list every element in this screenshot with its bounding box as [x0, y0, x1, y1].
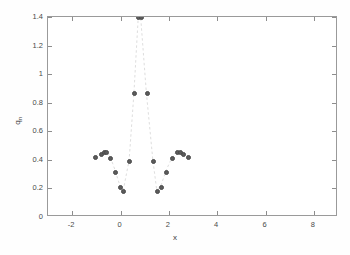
x-tick-6	[266, 211, 267, 215]
data-point	[164, 170, 169, 175]
y-tick-label-0.2: 0.2	[18, 183, 43, 192]
y-tick-right-0.4	[332, 160, 336, 161]
x-tick-top-2	[169, 17, 170, 21]
y-tick-label-1: 1	[18, 69, 43, 78]
y-tick-label-1.2: 1.2	[18, 40, 43, 49]
data-point	[93, 155, 98, 160]
y-axis-label-subscript: n	[17, 117, 23, 120]
y-tick-0.2	[48, 188, 52, 189]
data-point	[170, 156, 175, 161]
data-point	[132, 91, 137, 96]
data-point	[104, 150, 109, 155]
data-point	[113, 170, 118, 175]
y-tick-1.4	[48, 17, 52, 18]
data-point	[108, 156, 113, 161]
x-tick-label-4: 4	[214, 220, 218, 229]
x-tick-8	[314, 211, 315, 215]
data-point	[127, 159, 132, 164]
x-tick-label-0: 0	[117, 220, 121, 229]
y-tick-label-0: 0	[18, 212, 43, 221]
y-tick-1.2	[48, 46, 52, 47]
x-tick-label--2: -2	[68, 220, 75, 229]
y-tick-right-0.2	[332, 188, 336, 189]
x-tick-label-2: 2	[166, 220, 170, 229]
y-axis-label-base: q	[13, 120, 22, 124]
x-tick-2	[169, 211, 170, 215]
y-tick-0.6	[48, 131, 52, 132]
data-point	[139, 16, 144, 20]
x-tick-0	[121, 211, 122, 215]
x-tick-label-8: 8	[311, 220, 315, 229]
y-tick-label-0.4: 0.4	[18, 154, 43, 163]
x-tick-top-4	[217, 17, 218, 21]
y-tick-right-0.6	[332, 131, 336, 132]
y-tick-right-1	[332, 74, 336, 75]
x-axis-label: x	[0, 233, 350, 242]
x-tick-top-8	[314, 17, 315, 21]
data-point	[186, 155, 191, 160]
y-axis-label: qn	[13, 117, 23, 125]
y-tick-right-1.4	[332, 17, 336, 18]
data-point	[121, 189, 126, 194]
plot-area	[47, 16, 337, 216]
data-point	[145, 91, 150, 96]
series-connecting-lines	[48, 17, 336, 215]
data-point	[151, 159, 156, 164]
y-tick-right-1.2	[332, 46, 336, 47]
y-tick-1	[48, 74, 52, 75]
data-point	[159, 185, 164, 190]
y-tick-label-0.8: 0.8	[18, 97, 43, 106]
y-tick-0.4	[48, 160, 52, 161]
y-tick-label-0.6: 0.6	[18, 126, 43, 135]
y-tick-right-0.8	[332, 103, 336, 104]
x-tick-top--2	[72, 17, 73, 21]
y-tick-label-1.4: 1.4	[18, 12, 43, 21]
x-tick-label-6: 6	[262, 220, 266, 229]
y-tick-0.8	[48, 103, 52, 104]
x-tick-4	[217, 211, 218, 215]
data-point	[181, 152, 186, 157]
x-tick-top-6	[266, 17, 267, 21]
data-point	[155, 189, 160, 194]
figure: qn x -202468 00.20.40.60.811.21.4	[0, 0, 350, 255]
series-line-0	[95, 17, 187, 190]
x-tick--2	[72, 211, 73, 215]
x-tick-top-0	[121, 17, 122, 21]
